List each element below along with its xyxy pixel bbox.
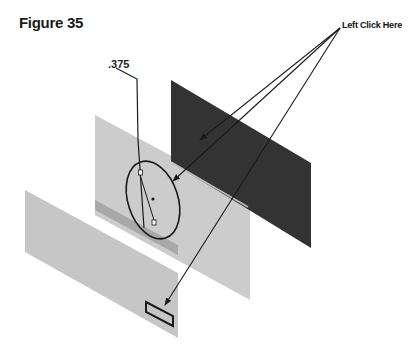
callout-arrow-dark-plane	[200, 28, 340, 140]
diagram-canvas	[0, 0, 419, 359]
dimension-center-point	[151, 197, 154, 200]
dimension-grip-top	[139, 170, 143, 175]
dimension-grip-bottom	[152, 220, 156, 225]
